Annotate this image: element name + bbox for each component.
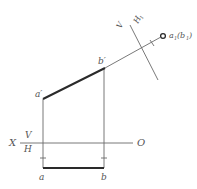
projection-diagram: X O V H a′ b′ a b a 1 (b 1: [0, 0, 197, 189]
plane-v-label: V: [25, 130, 33, 140]
point-a1-b1-marker: [161, 34, 166, 39]
label-b: b: [101, 172, 107, 182]
plane-h-label: H: [23, 144, 32, 154]
label-a-prime: a′: [35, 89, 42, 99]
label-b-prime: b′: [98, 56, 106, 66]
label-a: a: [39, 172, 44, 182]
segment-ab-front-view: [43, 68, 105, 99]
label-b1-close: ): [188, 31, 192, 40]
axis-x-label: X: [8, 137, 17, 148]
x1-axis-line: [130, 25, 158, 80]
label-b1-open: (b: [177, 31, 185, 40]
new-plane-v-label: V: [115, 20, 126, 30]
axis-o-label: O: [137, 137, 145, 148]
label-a1-b1: a 1 (b 1 ): [169, 31, 192, 41]
